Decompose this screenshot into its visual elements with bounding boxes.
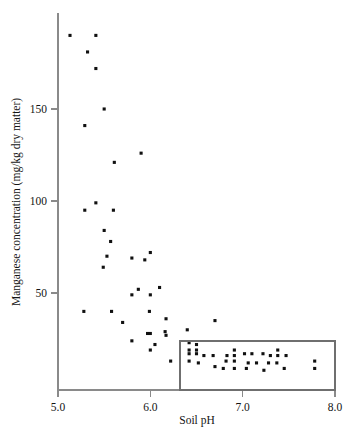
data-point — [146, 332, 149, 335]
data-point — [243, 352, 246, 355]
data-point — [113, 161, 116, 164]
data-point — [82, 310, 85, 313]
data-point — [233, 354, 236, 357]
y-tick-label: 150 — [30, 103, 48, 115]
x-tick-label: 7.0 — [235, 401, 250, 413]
data-point — [212, 354, 215, 357]
data-point — [197, 361, 200, 364]
data-point — [267, 361, 270, 364]
data-point — [164, 334, 167, 337]
y-axis-ticks: 50100150 — [30, 103, 58, 299]
data-point — [83, 209, 86, 212]
data-point — [276, 348, 279, 351]
data-point — [247, 361, 250, 364]
y-axis-title: Manganese concentration (mg/kg dry matte… — [10, 98, 23, 306]
data-point — [269, 354, 272, 357]
data-point — [261, 352, 264, 355]
scatter-plot-figure: 50100150 5.06.07.08.0 Soil pH Manganese … — [0, 0, 358, 445]
data-point — [225, 354, 228, 357]
data-point — [112, 209, 115, 212]
x-tick-label: 6.0 — [143, 401, 158, 413]
x-tick-label: 8.0 — [328, 401, 343, 413]
data-point — [202, 354, 205, 357]
data-point — [245, 367, 248, 370]
data-point — [213, 365, 216, 368]
data-point — [158, 286, 161, 289]
data-point — [164, 330, 167, 333]
x-axis-ticks: 5.06.07.08.0 — [51, 390, 343, 413]
data-point — [213, 319, 216, 322]
data-point — [94, 201, 97, 204]
data-point — [188, 360, 191, 363]
data-point — [276, 354, 279, 357]
highlight-rectangle — [180, 341, 335, 390]
data-point — [222, 367, 225, 370]
data-point — [149, 332, 152, 335]
data-point — [225, 360, 228, 363]
data-point — [255, 361, 258, 364]
data-point — [285, 354, 288, 357]
data-point — [188, 341, 191, 344]
data-point — [103, 107, 106, 110]
data-point — [283, 367, 286, 370]
data-point — [188, 352, 191, 355]
data-point — [110, 310, 113, 313]
data-point — [105, 255, 108, 258]
data-point — [186, 328, 189, 331]
data-point — [313, 367, 316, 370]
data-point — [137, 288, 140, 291]
data-point — [148, 310, 151, 313]
data-point — [83, 124, 86, 127]
plot-canvas: 50100150 5.06.07.08.0 Soil pH Manganese … — [0, 0, 358, 445]
data-point — [153, 343, 156, 346]
data-point — [233, 360, 236, 363]
data-point — [103, 229, 106, 232]
data-point — [195, 348, 198, 351]
data-point — [149, 348, 152, 351]
data-point — [140, 152, 143, 155]
x-axis-title: Soil pH — [179, 414, 214, 427]
data-point — [94, 67, 97, 70]
data-point — [250, 352, 253, 355]
data-point — [169, 360, 172, 363]
data-point — [313, 360, 316, 363]
data-point — [195, 352, 198, 355]
data-point — [94, 34, 97, 37]
data-point — [68, 34, 71, 37]
data-point — [86, 50, 89, 53]
axes-group — [58, 13, 336, 390]
data-point — [195, 343, 198, 346]
data-point — [233, 367, 236, 370]
data-point — [149, 251, 152, 254]
y-tick-label: 50 — [36, 287, 48, 299]
data-point — [109, 240, 112, 243]
data-point — [275, 361, 278, 364]
data-point — [121, 321, 124, 324]
data-point — [164, 317, 167, 320]
data-point — [233, 348, 236, 351]
data-point — [130, 293, 133, 296]
data-point — [130, 339, 133, 342]
data-point — [149, 293, 152, 296]
y-tick-label: 100 — [30, 195, 48, 207]
x-tick-label: 5.0 — [51, 401, 66, 413]
data-point — [262, 369, 265, 372]
data-point — [130, 256, 133, 259]
data-points-layer — [68, 34, 316, 372]
data-point — [188, 348, 191, 351]
data-point — [102, 266, 105, 269]
data-point — [143, 258, 146, 261]
